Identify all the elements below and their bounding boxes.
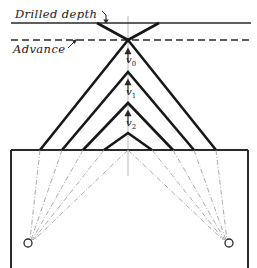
advance-label: Advance xyxy=(13,42,65,56)
drilled-depth-label: Drilled depth xyxy=(15,7,97,21)
right-focus-circle xyxy=(225,239,233,247)
velocity-label-v0: v0 xyxy=(126,54,136,68)
right-convergence-rays xyxy=(128,150,227,240)
velocity-subscript-v1: 1 xyxy=(132,92,136,100)
drawing-canvas xyxy=(0,0,257,268)
left-convergence-rays xyxy=(30,150,128,240)
velocity-subscript-v0: 0 xyxy=(132,60,136,68)
rock-face-rect xyxy=(11,150,248,268)
velocity-label-v2: v2 xyxy=(126,117,136,131)
wedge-upper-leg-left xyxy=(97,23,128,40)
velocity-subscript-v2: 2 xyxy=(132,123,136,131)
left-focus-circle xyxy=(24,239,32,247)
drilled-depth-leader-arrow xyxy=(102,11,109,23)
velocity-label-v1: v1 xyxy=(126,86,136,100)
technical-drawing-figure: Drilled depth Advance v0 v1 v2 xyxy=(0,0,257,268)
wedge-upper-leg-right xyxy=(128,23,159,40)
